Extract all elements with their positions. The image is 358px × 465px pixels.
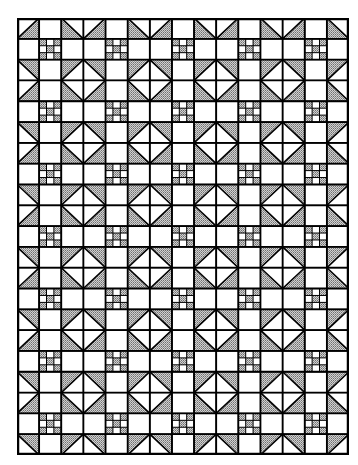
nine-patch-square <box>305 365 312 372</box>
nine-patch-square <box>179 295 186 302</box>
nine-patch-square <box>312 108 319 115</box>
nine-patch-square <box>319 53 326 60</box>
nine-patch-square <box>179 108 186 115</box>
nine-patch-square <box>54 178 61 185</box>
quilt-blocks <box>17 18 349 455</box>
nine-patch-square <box>47 46 54 53</box>
nine-patch-square <box>305 53 312 60</box>
nine-patch-square <box>187 164 194 171</box>
nine-patch-square <box>54 427 61 434</box>
nine-patch-square <box>54 289 61 296</box>
nine-patch-square <box>187 178 194 185</box>
nine-patch-square <box>305 413 312 420</box>
nine-patch-square <box>246 420 253 427</box>
nine-patch-square <box>305 39 312 46</box>
nine-patch-square <box>238 289 245 296</box>
nine-patch-square <box>179 171 186 178</box>
nine-patch-square <box>172 115 179 122</box>
nine-patch-square <box>120 365 127 372</box>
nine-patch-square <box>238 365 245 372</box>
nine-patch-square <box>120 413 127 420</box>
nine-patch-square <box>238 53 245 60</box>
nine-patch-square <box>47 233 54 240</box>
nine-patch-square <box>39 53 46 60</box>
nine-patch-square <box>106 39 113 46</box>
nine-patch-square <box>54 164 61 171</box>
nine-patch-square <box>39 164 46 171</box>
nine-patch-square <box>319 101 326 108</box>
nine-patch-square <box>39 39 46 46</box>
nine-patch-square <box>39 226 46 233</box>
nine-patch-square <box>246 233 253 240</box>
nine-patch-square <box>238 178 245 185</box>
nine-patch-square <box>319 427 326 434</box>
nine-patch-square <box>253 226 260 233</box>
nine-patch-square <box>246 108 253 115</box>
nine-patch-square <box>172 164 179 171</box>
nine-patch-square <box>253 302 260 309</box>
nine-patch-square <box>54 302 61 309</box>
nine-patch-square <box>312 358 319 365</box>
nine-patch-square <box>172 302 179 309</box>
nine-patch-square <box>120 178 127 185</box>
nine-patch-square <box>187 365 194 372</box>
nine-patch-square <box>238 226 245 233</box>
nine-patch-square <box>187 53 194 60</box>
nine-patch-square <box>238 115 245 122</box>
nine-patch-square <box>187 240 194 247</box>
nine-patch-square <box>187 289 194 296</box>
nine-patch-square <box>312 233 319 240</box>
nine-patch-square <box>246 358 253 365</box>
nine-patch-square <box>106 365 113 372</box>
nine-patch-square <box>312 295 319 302</box>
nine-patch-square <box>120 351 127 358</box>
nine-patch-square <box>120 53 127 60</box>
nine-patch-square <box>172 39 179 46</box>
nine-patch-square <box>179 420 186 427</box>
nine-patch-square <box>106 302 113 309</box>
nine-patch-square <box>54 115 61 122</box>
nine-patch-square <box>120 101 127 108</box>
nine-patch-square <box>187 413 194 420</box>
nine-patch-square <box>319 365 326 372</box>
nine-patch-square <box>246 46 253 53</box>
nine-patch-square <box>54 351 61 358</box>
nine-patch-square <box>113 295 120 302</box>
nine-patch-square <box>187 226 194 233</box>
nine-patch-square <box>39 289 46 296</box>
nine-patch-square <box>106 53 113 60</box>
nine-patch-square <box>54 39 61 46</box>
nine-patch-square <box>113 233 120 240</box>
nine-patch-square <box>305 289 312 296</box>
nine-patch-square <box>319 302 326 309</box>
nine-patch-square <box>54 365 61 372</box>
nine-patch-square <box>305 226 312 233</box>
nine-patch-square <box>187 115 194 122</box>
nine-patch-square <box>106 178 113 185</box>
nine-patch-square <box>253 427 260 434</box>
nine-patch-square <box>47 108 54 115</box>
nine-patch-square <box>106 240 113 247</box>
nine-patch-square <box>319 351 326 358</box>
nine-patch-square <box>253 164 260 171</box>
nine-patch-square <box>319 39 326 46</box>
nine-patch-square <box>253 351 260 358</box>
nine-patch-square <box>238 413 245 420</box>
nine-patch-square <box>305 164 312 171</box>
nine-patch-square <box>179 233 186 240</box>
nine-patch-square <box>238 302 245 309</box>
nine-patch-square <box>253 240 260 247</box>
nine-patch-square <box>47 358 54 365</box>
nine-patch-square <box>106 413 113 420</box>
nine-patch-square <box>120 302 127 309</box>
nine-patch-square <box>238 351 245 358</box>
nine-patch-square <box>319 289 326 296</box>
nine-patch-square <box>172 289 179 296</box>
nine-patch-square <box>47 295 54 302</box>
nine-patch-square <box>172 240 179 247</box>
nine-patch-square <box>106 427 113 434</box>
nine-patch-square <box>253 53 260 60</box>
nine-patch-square <box>319 240 326 247</box>
nine-patch-square <box>120 226 127 233</box>
nine-patch-square <box>39 240 46 247</box>
